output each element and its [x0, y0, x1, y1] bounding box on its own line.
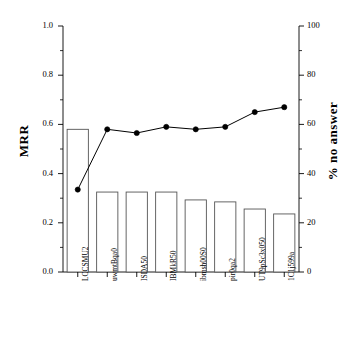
chart-root: MRR % no answer 0.00.20.40.60.81.0020406… [0, 0, 352, 347]
x-axis-tick-label: ISDA50 [140, 256, 149, 281]
y-axis-tick-label-left: 0.4 [27, 168, 53, 178]
x-axis-tick-label: uwmtBqa0 [110, 248, 119, 281]
y-axis-tick-label-right: 0 [307, 266, 333, 276]
x-axis-tick-label: IBMkR50 [169, 251, 178, 281]
y-axis-tick-label-left: 1.0 [27, 20, 53, 30]
y-axis-tick-label-right: 20 [307, 217, 333, 227]
y-axis-tick-label-right: 40 [307, 168, 333, 178]
y-axis-tick-label-left: 0.6 [27, 118, 53, 128]
x-axis-tick-label: 1C1j599a [287, 252, 296, 281]
y-axis-tick-label-right: 60 [307, 118, 333, 128]
x-axis-tick-label: UT9pSc3x050 [258, 237, 267, 281]
x-axis-tick-label: ibmsh00S0 [199, 247, 208, 281]
y-axis-tick-label-left: 0.0 [27, 266, 53, 276]
y-axis-tick-label-right: 100 [307, 20, 333, 30]
y-axis-tick-label-left: 0.8 [27, 69, 53, 79]
y-axis-tick-label-right: 80 [307, 69, 333, 79]
x-axis-tick-label: LCCSMU2 [81, 246, 90, 281]
y-axis-tick-label-left: 0.2 [27, 217, 53, 227]
x-axis-tick-label: pir0qa2 [228, 258, 237, 281]
